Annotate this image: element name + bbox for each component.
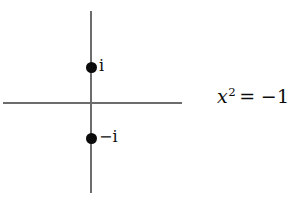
equation-result: −1 bbox=[261, 85, 290, 107]
point-marker-i bbox=[86, 62, 97, 73]
equation-operator: = bbox=[239, 85, 255, 107]
real-axis-line bbox=[3, 102, 182, 104]
equation-variable: x bbox=[217, 85, 228, 107]
point-marker-minus-i bbox=[86, 133, 97, 144]
point-label-i: i bbox=[99, 58, 104, 74]
equation-x-squared-equals-minus-one: x2=−1 bbox=[217, 87, 290, 106]
equation-exponent: 2 bbox=[228, 85, 236, 99]
complex-plane-figure: i −i x2=−1 bbox=[0, 0, 299, 200]
point-label-minus-i: −i bbox=[99, 129, 118, 145]
